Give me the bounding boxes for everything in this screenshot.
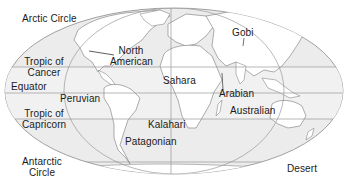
label-tropic-of-capricorn-line1: Tropic of: [22, 108, 66, 119]
label-gobi-desert: Gobi: [232, 27, 254, 38]
label-tropic-of-cancer-line2: Cancer: [24, 67, 64, 78]
label-tropic-of-capricorn-line2: Capricorn: [22, 119, 66, 130]
label-kalahari-desert: Kalahari: [148, 119, 186, 130]
label-north-american-desert: North American: [110, 45, 152, 67]
label-north-american-line2: American: [110, 56, 152, 67]
label-tropic-of-cancer-line1: Tropic of: [24, 56, 64, 67]
label-tropic-of-capricorn: Tropic of Capricorn: [22, 108, 66, 130]
label-australian-desert: Australian: [230, 105, 275, 116]
label-peruvian-desert: Peruvian: [60, 93, 100, 104]
label-arctic-circle: Arctic Circle: [22, 13, 77, 24]
label-antarctic-circle-line2: Circle: [20, 167, 64, 178]
label-desert-suffix: Desert: [287, 163, 317, 174]
label-patagonian-desert: Patagonian: [125, 136, 177, 147]
label-antarctic-circle-line1: Antarctic: [20, 156, 64, 167]
label-equator: Equator: [11, 81, 47, 92]
label-arabian-desert: Arabian: [219, 88, 254, 99]
label-north-american-line1: North: [110, 45, 152, 56]
label-tropic-of-cancer: Tropic of Cancer: [24, 56, 64, 78]
label-sahara-desert: Sahara: [163, 75, 196, 86]
label-antarctic-circle: Antarctic Circle: [20, 156, 64, 178]
